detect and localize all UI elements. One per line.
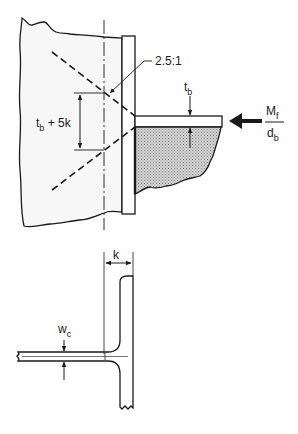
web-thickness-label: wc (57, 322, 72, 339)
structural-diagram: tb + 5k 2.5:1 tb Mf db k (0, 0, 298, 434)
top-view: tb + 5k 2.5:1 tb Mf db (19, 18, 284, 230)
column-section-outline (17, 276, 133, 409)
force-denominator: db (267, 126, 279, 143)
flange-thickness-label: tb (184, 80, 192, 97)
beam-flange (135, 116, 222, 127)
beam-web-hatched (135, 127, 221, 194)
slope-label: 2.5:1 (155, 54, 182, 68)
column-flange (122, 36, 135, 214)
force-numerator: Mf (266, 104, 279, 121)
force-arrow-head (229, 113, 242, 129)
bottom-view: k wc (17, 248, 133, 409)
k-label: k (113, 248, 120, 262)
